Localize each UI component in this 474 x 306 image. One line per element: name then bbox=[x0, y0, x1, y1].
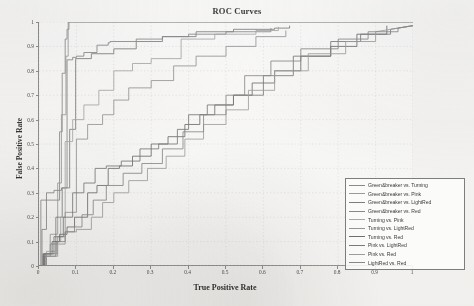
roc-curves-figure: ROC Curves 00.10.20.30.40.50.60.70.80.91… bbox=[0, 0, 474, 306]
legend-line-swatch bbox=[349, 262, 365, 263]
legend-line-swatch bbox=[349, 254, 365, 255]
x-tick-mark bbox=[150, 266, 151, 269]
roc-curve bbox=[39, 28, 271, 266]
legend-line-swatch bbox=[349, 211, 365, 212]
legend-item[interactable]: Pink vs. Red bbox=[349, 250, 462, 259]
legend-line-swatch bbox=[349, 228, 365, 229]
y-tick-mark bbox=[36, 46, 39, 47]
x-tick-mark bbox=[188, 266, 189, 269]
x-axis-label: True Positive Rate bbox=[38, 283, 412, 292]
x-tick-mark bbox=[225, 266, 226, 269]
y-tick-mark bbox=[36, 242, 39, 243]
legend-line-swatch bbox=[349, 219, 365, 220]
legend-item-label: Turning vs. LightRed bbox=[368, 225, 414, 231]
y-axis-label: False Positive Rate bbox=[15, 84, 24, 214]
y-tick-mark bbox=[36, 144, 39, 145]
y-tick-label: 0.2 bbox=[20, 214, 34, 220]
y-tick-mark bbox=[36, 22, 39, 23]
legend-item[interactable]: Turning vs. Pink bbox=[349, 215, 462, 224]
legend-item-label: Green&breaker vs. Turning bbox=[368, 182, 428, 188]
legend-item-label: Turning vs. Red bbox=[368, 234, 403, 240]
chart-title: ROC Curves bbox=[0, 6, 474, 16]
legend-line-swatch bbox=[349, 245, 365, 246]
y-tick-mark bbox=[36, 120, 39, 121]
y-tick-label: 1 bbox=[20, 19, 34, 25]
legend-line-swatch bbox=[349, 193, 365, 194]
chart-legend[interactable]: Green&breaker vs. TurningGreen&breaker v… bbox=[345, 178, 465, 270]
legend-item-label: Pink vs. LightRed bbox=[368, 242, 407, 248]
legend-item[interactable]: Pink vs. LightRed bbox=[349, 241, 462, 250]
y-tick-mark bbox=[36, 71, 39, 72]
x-tick-mark bbox=[113, 266, 114, 269]
legend-line-swatch bbox=[349, 185, 365, 186]
y-tick-label: 0.8 bbox=[20, 68, 34, 74]
x-tick-label: 0.7 bbox=[296, 269, 303, 275]
legend-item[interactable]: Green&breaker vs. LightRed bbox=[349, 198, 462, 207]
x-tick-label: 0.3 bbox=[147, 269, 154, 275]
legend-line-swatch bbox=[349, 202, 365, 203]
x-tick-label: 0.8 bbox=[334, 269, 341, 275]
legend-item-label: Green&breaker vs. Red bbox=[368, 208, 420, 214]
x-tick-label: 0.5 bbox=[222, 269, 229, 275]
legend-item-label: LightRed vs. Red bbox=[368, 260, 406, 266]
x-tick-label: 0.6 bbox=[259, 269, 266, 275]
x-tick-label: 0.2 bbox=[109, 269, 116, 275]
y-tick-mark bbox=[36, 168, 39, 169]
legend-item-label: Green&breaker vs. LightRed bbox=[368, 199, 431, 205]
y-tick-mark bbox=[36, 95, 39, 96]
x-tick-mark bbox=[337, 266, 338, 269]
legend-item[interactable]: Turning vs. LightRed bbox=[349, 224, 462, 233]
legend-item[interactable]: LightRed vs. Red bbox=[349, 258, 462, 267]
x-tick-mark bbox=[262, 266, 263, 269]
legend-item[interactable]: Green&breaker vs. Red bbox=[349, 207, 462, 216]
y-tick-mark bbox=[36, 266, 39, 267]
legend-item[interactable]: Green&breaker vs. Turning bbox=[349, 181, 462, 190]
legend-item-label: Green&breaker vs. Pink bbox=[368, 191, 421, 197]
y-tick-mark bbox=[36, 217, 39, 218]
x-tick-label: 0 bbox=[37, 269, 40, 275]
y-tick-mark bbox=[36, 193, 39, 194]
legend-line-swatch bbox=[349, 236, 365, 237]
x-tick-mark bbox=[75, 266, 76, 269]
roc-curve bbox=[39, 26, 387, 266]
legend-item[interactable]: Green&breaker vs. Pink bbox=[349, 190, 462, 199]
legend-item-label: Turning vs. Pink bbox=[368, 217, 404, 223]
x-tick-mark bbox=[38, 266, 39, 269]
y-tick-label: 0 bbox=[20, 263, 34, 269]
x-tick-label: 0.1 bbox=[72, 269, 79, 275]
y-tick-label: 0.9 bbox=[20, 43, 34, 49]
x-tick-mark bbox=[300, 266, 301, 269]
y-tick-label: 0.1 bbox=[20, 239, 34, 245]
x-tick-label: 0.4 bbox=[184, 269, 191, 275]
legend-item[interactable]: Turning vs. Red bbox=[349, 233, 462, 242]
legend-item-label: Pink vs. Red bbox=[368, 251, 396, 257]
